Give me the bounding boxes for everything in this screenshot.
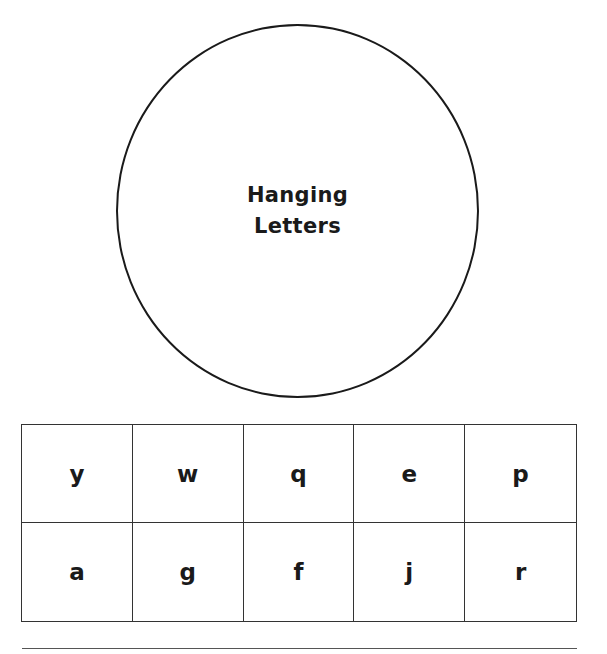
letter-card[interactable]: j (354, 523, 465, 621)
worksheet-title: Hanging Letters (247, 180, 348, 242)
letter-card[interactable]: y (22, 425, 133, 523)
letter-card[interactable]: r (465, 523, 576, 621)
letter-card[interactable]: f (244, 523, 355, 621)
title-circle: Hanging Letters (116, 24, 479, 398)
letter-card[interactable]: w (133, 425, 244, 523)
letter-card[interactable]: a (22, 523, 133, 621)
letter-card[interactable]: g (133, 523, 244, 621)
letter-card[interactable]: q (244, 425, 355, 523)
divider-line (22, 648, 577, 649)
letter-card[interactable]: e (354, 425, 465, 523)
title-line-1: Hanging (247, 180, 348, 211)
letter-grid: y w q e p a g f j r (21, 424, 577, 622)
letter-card[interactable]: p (465, 425, 576, 523)
title-line-2: Letters (247, 211, 348, 242)
